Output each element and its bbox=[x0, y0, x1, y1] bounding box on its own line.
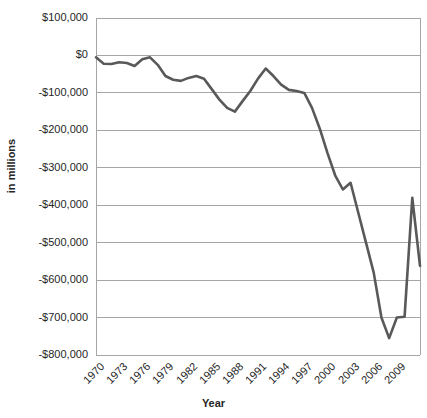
x-tick-label: 1997 bbox=[285, 360, 315, 390]
x-tick-label: 1979 bbox=[146, 360, 176, 390]
x-tick-label: 1982 bbox=[169, 360, 199, 390]
x-tick-label: 1985 bbox=[192, 360, 222, 390]
x-tick-label: 1973 bbox=[100, 360, 130, 390]
x-axis-title: Year bbox=[0, 397, 427, 409]
deficit-line-chart: in millions $100,000$0-$100,000-$200,000… bbox=[0, 0, 427, 418]
x-tick-label: 2003 bbox=[331, 360, 361, 390]
x-axis-tick-labels: 1970197319761979198219851988199119941997… bbox=[0, 0, 427, 418]
x-tick-label: 2009 bbox=[378, 360, 408, 390]
x-tick-label: 1970 bbox=[77, 360, 107, 390]
x-tick-label: 2006 bbox=[354, 360, 384, 390]
x-tick-label: 2000 bbox=[308, 360, 338, 390]
x-tick-label: 1988 bbox=[216, 360, 246, 390]
x-tick-label: 1994 bbox=[262, 360, 292, 390]
x-tick-label: 1976 bbox=[123, 360, 153, 390]
x-tick-label: 1991 bbox=[239, 360, 269, 390]
